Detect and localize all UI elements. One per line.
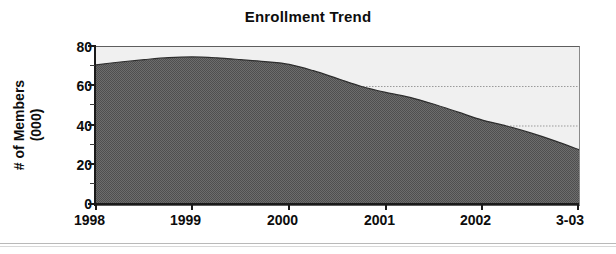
- y-tick-mark-40: [88, 124, 95, 126]
- y-tick-label-20: 20: [52, 158, 92, 172]
- x-tick-label-1999: 1999: [170, 212, 201, 228]
- page-divider-line: [0, 243, 616, 244]
- y-tick-mark-80: [88, 45, 95, 47]
- x-tick-mark-2000: [288, 204, 290, 210]
- y-tick-mark-60: [88, 84, 95, 86]
- x-tick-mark-1998: [95, 204, 97, 210]
- area-chart-svg: [96, 47, 579, 205]
- y-tick-mark-50: [90, 104, 95, 105]
- y-axis-title: # of Members (000): [6, 44, 50, 206]
- x-tick-label-2000: 2000: [267, 212, 298, 228]
- x-tick-mark-2001: [385, 204, 387, 210]
- y-tick-label-0: 0: [52, 197, 92, 211]
- plot-inner: [96, 47, 579, 205]
- x-tick-mark-2002: [481, 204, 483, 210]
- chart-title: Enrollment Trend: [0, 8, 616, 25]
- plot-area: [95, 46, 580, 206]
- page-divider-line-secondary: [0, 246, 616, 247]
- x-tick-label-3-03: 3-03: [556, 212, 584, 228]
- x-tick-mark-3-03: [577, 204, 579, 210]
- x-tick-label-2002: 2002: [460, 212, 491, 228]
- y-tick-mark-10: [90, 183, 95, 184]
- chart-screenshot: Enrollment Trend # of Members (000) 80 6…: [0, 0, 616, 254]
- y-tick-label-60: 60: [52, 79, 92, 93]
- y-tick-mark-70: [90, 65, 95, 66]
- x-tick-mark-1999: [191, 204, 193, 210]
- x-tick-label-1998: 1998: [74, 212, 105, 228]
- y-tick-mark-30: [90, 144, 95, 145]
- y-tick-label-80: 80: [52, 40, 92, 54]
- y-axis-title-line1: # of Members: [11, 80, 27, 170]
- y-tick-mark-20: [88, 163, 95, 165]
- y-axis-title-line2: (000): [28, 80, 45, 170]
- y-tick-label-40: 40: [52, 119, 92, 133]
- y-tick-mark-0: [88, 203, 95, 205]
- x-axis-line: [94, 203, 579, 205]
- x-tick-label-2001: 2001: [364, 212, 395, 228]
